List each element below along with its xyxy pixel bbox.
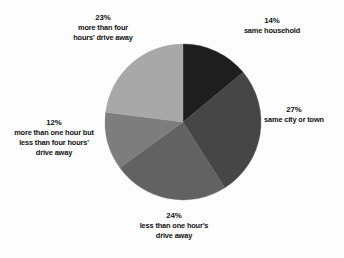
pie-label-line: more than one hour but (2, 128, 106, 138)
pie-label-line: less than four hours' (2, 138, 106, 148)
pie-label-more-than-four-hours: 23% more than four hours' drive away (45, 13, 161, 43)
pie-label-line: less than one hour's (112, 221, 236, 231)
pie-label-percent: 24% (112, 211, 236, 221)
pie-label-description: same city or town (246, 115, 342, 125)
pie-label-percent: 14% (224, 16, 320, 26)
pie-label-percent: 27% (246, 105, 342, 115)
pie-label-description: same household (224, 26, 320, 36)
pie-label-line: hours' drive away (45, 33, 161, 43)
pie-label-line: more than four (45, 23, 161, 33)
pie-chart-figure: 14% same household 27% same city or town… (0, 0, 344, 258)
pie-label-description: more than one hour but less than four ho… (2, 128, 106, 157)
pie-label-line: drive away (112, 231, 236, 241)
pie-slices (105, 44, 261, 200)
pie-label-less-than-one-hour: 24% less than one hour's drive away (112, 211, 236, 241)
pie-label-percent: 12% (2, 118, 106, 128)
pie-label-description: less than one hour's drive away (112, 221, 236, 240)
pie-label-percent: 23% (45, 13, 161, 23)
pie-label-one-to-four-hours: 12% more than one hour but less than fou… (2, 118, 106, 157)
pie-label-line: same city or town (246, 115, 342, 125)
pie-label-same-household: 14% same household (224, 16, 320, 36)
pie-slice-more-than-four-hours[interactable] (106, 44, 183, 122)
pie-label-line: same household (224, 26, 320, 36)
pie-label-line: drive away (2, 148, 106, 158)
pie-label-same-city-or-town: 27% same city or town (246, 105, 342, 125)
pie-label-description: more than four hours' drive away (45, 23, 161, 42)
